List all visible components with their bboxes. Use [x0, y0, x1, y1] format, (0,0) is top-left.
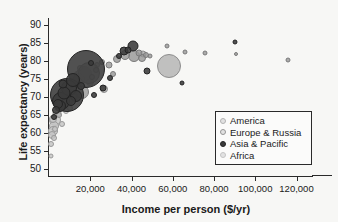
x-axis-extension [312, 175, 332, 176]
legend-item[interactable]: Asia & Pacific [220, 138, 307, 150]
x-axis-title: Income per person ($/yr) [48, 203, 324, 215]
data-point-bubble [59, 121, 65, 127]
y-axis-tick [44, 97, 49, 98]
y-axis-tick-label: 50 [30, 164, 41, 174]
x-axis-tick [255, 176, 256, 181]
data-point-bubble [48, 141, 54, 147]
data-point-bubble [77, 82, 85, 90]
x-axis-tick [173, 176, 174, 181]
data-point-bubble [232, 40, 237, 45]
data-point-bubble [143, 67, 150, 74]
x-axis-tick-label: 80,000 [199, 184, 228, 194]
x-axis-tick-label: 100,000 [238, 184, 272, 194]
x-axis-tick-label: 20,000 [76, 184, 105, 194]
data-point-bubble [88, 60, 94, 66]
y-axis-tick-label: 75 [30, 74, 41, 84]
data-point-bubble [234, 52, 238, 56]
y-axis-tick [44, 25, 49, 26]
legend-label: Europe & Russia [230, 128, 301, 138]
data-point-bubble [52, 106, 60, 114]
y-axis-title: Life expectancy (years) [17, 27, 29, 177]
x-axis-tick-label: 60,000 [158, 184, 187, 194]
y-axis-tick [44, 79, 49, 80]
data-point-bubble [125, 47, 132, 54]
y-axis-tick-label: 85 [30, 38, 41, 48]
data-point-bubble [91, 92, 97, 98]
data-point-bubble [51, 135, 57, 141]
y-axis-tick [44, 151, 49, 152]
data-point-bubble [105, 61, 112, 68]
legend-label: Asia & Pacific [230, 139, 288, 149]
data-point-bubble [52, 126, 58, 132]
y-axis-tick-label: 65 [30, 110, 41, 120]
data-point-bubble [157, 54, 181, 78]
y-axis-tick [44, 169, 49, 170]
legend-item[interactable]: Africa [220, 150, 307, 162]
legend-marker-icon [220, 141, 226, 147]
data-point-bubble [164, 44, 169, 49]
legend-item[interactable]: Europe & Russia [220, 127, 307, 139]
y-axis-tick-label: 60 [30, 128, 41, 138]
legend-marker-icon [220, 152, 226, 158]
chart-legend: AmericaEurope & RussiaAsia & PacificAfri… [215, 111, 312, 165]
x-axis-tick [132, 176, 133, 181]
data-point-bubble [180, 81, 185, 86]
data-point-bubble [51, 114, 57, 120]
y-axis-tick [44, 115, 49, 116]
scatter-chart: Life expectancy (years) 5055606570758085… [0, 0, 338, 222]
data-point-bubble [135, 50, 142, 57]
legend-item[interactable]: America [220, 115, 307, 127]
data-point-bubble [202, 50, 207, 55]
y-axis-tick-label: 80 [30, 56, 41, 66]
legend-label: America [230, 116, 265, 126]
data-point-bubble [116, 53, 122, 59]
y-axis-tick-label: 90 [30, 20, 41, 30]
x-axis-tick [214, 176, 215, 181]
legend-marker-icon [220, 118, 226, 124]
x-axis-tick [90, 176, 91, 181]
data-point-bubble [183, 50, 188, 55]
data-point-bubble [148, 53, 153, 58]
data-point-bubble [99, 85, 106, 92]
x-axis-tick-label: 40,000 [117, 184, 146, 194]
y-axis-tick-label: 70 [30, 92, 41, 102]
legend-marker-icon [220, 129, 226, 135]
data-point-bubble [107, 75, 113, 81]
y-axis-tick [44, 43, 49, 44]
data-point-bubble [286, 58, 291, 63]
legend-label: Africa [230, 151, 254, 161]
x-axis-tick-label: 120,000 [279, 184, 313, 194]
data-point-bubble [66, 96, 76, 106]
x-axis-tick [297, 176, 298, 181]
y-axis-tick [44, 61, 49, 62]
data-point-bubble [49, 154, 54, 159]
y-axis-tick-label: 55 [30, 146, 41, 156]
data-point-bubble [59, 80, 68, 89]
